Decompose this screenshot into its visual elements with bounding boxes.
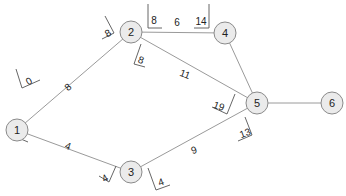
time-label-1-2-start: 0 xyxy=(16,69,40,88)
svg-text:19: 19 xyxy=(212,99,227,113)
node-3-label: 3 xyxy=(128,166,134,178)
node-3[interactable]: 3 xyxy=(120,161,142,183)
node-4-label: 4 xyxy=(222,27,228,39)
edge-3-5 xyxy=(131,103,257,172)
time-label-2-4-end: 14 xyxy=(194,4,209,28)
time-label-1-2-end: 8 xyxy=(102,16,114,39)
weight-2-5: 11 xyxy=(178,67,192,81)
svg-text:0: 0 xyxy=(24,75,35,88)
network-diagram: 8 4 6 11 9 0 8 0 4 8 xyxy=(0,0,346,196)
svg-text:8: 8 xyxy=(151,15,157,26)
time-label-3-5-end: 13 xyxy=(238,117,253,141)
node-6[interactable]: 6 xyxy=(321,92,343,114)
svg-text:13: 13 xyxy=(238,126,253,140)
weight-3-5: 9 xyxy=(190,144,199,156)
node-5-label: 5 xyxy=(254,97,260,109)
nodes: 1 2 3 4 5 6 xyxy=(6,21,343,183)
time-label-3-5-start: 4 xyxy=(148,168,170,190)
node-4[interactable]: 4 xyxy=(214,22,236,44)
node-2-label: 2 xyxy=(128,26,134,38)
time-label-2-5-start: 8 xyxy=(134,44,146,67)
svg-text:14: 14 xyxy=(195,16,207,27)
time-label-2-4-start: 8 xyxy=(148,4,162,28)
svg-text:4: 4 xyxy=(157,176,166,188)
time-label-2-5-end: 19 xyxy=(212,94,235,114)
edge-1-2 xyxy=(17,32,131,130)
edge-2-4 xyxy=(131,32,225,33)
edge-4-5 xyxy=(225,33,257,103)
node-1-label: 1 xyxy=(14,124,20,136)
svg-text:8: 8 xyxy=(137,54,146,66)
time-label-1-3-end: 4 xyxy=(99,166,116,184)
node-1[interactable]: 1 xyxy=(6,119,28,141)
node-2[interactable]: 2 xyxy=(120,21,142,43)
edges xyxy=(17,32,332,172)
edge-2-5 xyxy=(131,32,257,103)
node-6-label: 6 xyxy=(329,97,335,109)
weight-2-4: 6 xyxy=(174,17,180,28)
edge-1-3 xyxy=(17,130,131,172)
node-5[interactable]: 5 xyxy=(246,92,268,114)
